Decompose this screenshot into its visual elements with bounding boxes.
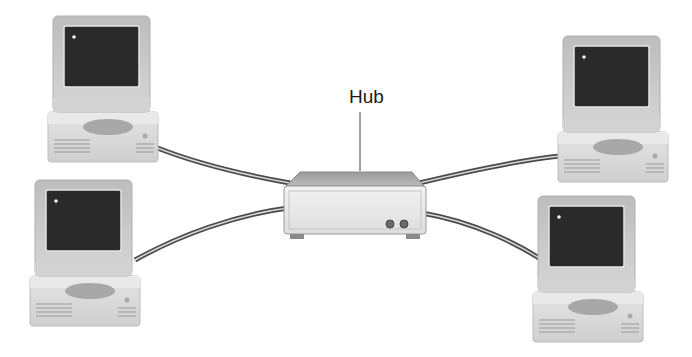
network-diagram <box>0 0 692 357</box>
computer-top-left <box>48 16 158 162</box>
hub-button-left <box>386 220 394 228</box>
hub-device <box>284 172 426 239</box>
computer-top-right <box>558 36 668 182</box>
computer-bottom-left <box>30 180 140 326</box>
hub-label: Hub <box>349 86 384 108</box>
computer-bottom-right <box>533 196 643 342</box>
hub-button-right <box>400 220 408 228</box>
